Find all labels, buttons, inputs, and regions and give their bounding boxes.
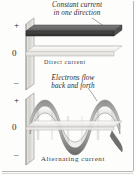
dc-annotation-line2: in one direction bbox=[54, 9, 101, 17]
dc-annotation: Constant current in one direction bbox=[38, 1, 116, 17]
ac-panel-art bbox=[26, 88, 122, 165]
ac-axis-tick-plus: + bbox=[14, 96, 19, 105]
ac-axis-tick-zero: 0 bbox=[12, 123, 17, 132]
dc-caption: Direct current bbox=[44, 59, 86, 66]
ac-zero-plane-face bbox=[26, 127, 114, 130]
figure-container: Constant current in one direction Direct… bbox=[0, 0, 136, 175]
dc-current-ribbon-top bbox=[26, 25, 122, 31]
ac-caption: Alternating current bbox=[41, 156, 105, 164]
dc-zero-ribbon-top bbox=[26, 46, 122, 52]
dc-zero-ribbon-face bbox=[26, 52, 114, 56]
ac-annotation-line2: back and forth bbox=[51, 82, 94, 90]
dc-axis-tick-zero: 0 bbox=[12, 49, 17, 58]
ac-ribbon-tail bbox=[110, 131, 122, 152]
dc-current-ribbon-face bbox=[26, 31, 114, 36]
dc-axis-tick-plus: + bbox=[14, 21, 19, 30]
ac-annotation: Electrons flow back and forth bbox=[36, 74, 110, 90]
ac-axis-tick-minus: – bbox=[14, 150, 19, 159]
ac-annotation-line1: Electrons flow bbox=[52, 74, 95, 82]
dc-axis-tick-minus: – bbox=[14, 78, 19, 87]
dc-annotation-line1: Constant current bbox=[52, 1, 102, 9]
ac-zero-plane-top bbox=[26, 121, 122, 127]
